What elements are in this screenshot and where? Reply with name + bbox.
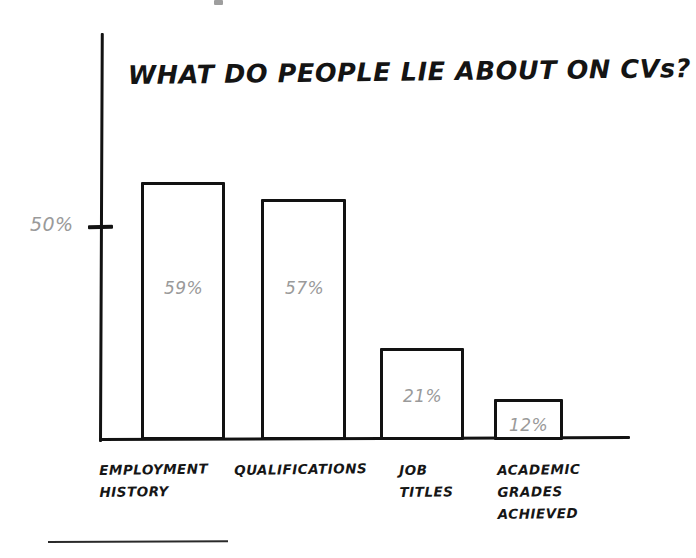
bar-qualifications [261, 199, 346, 440]
scan-artifact-mark [214, 0, 223, 5]
category-label-line: GRADES [497, 483, 562, 500]
category-label-line: HISTORY [99, 483, 168, 500]
chart-canvas: WHAT DO PEOPLE LIE ABOUT ON CVs? 50% 59%… [0, 0, 696, 558]
bar-employment-history [141, 182, 225, 440]
y-axis-tick-50 [88, 225, 113, 229]
footer-rule [48, 540, 228, 543]
bar-value-job-titles: 21% [403, 386, 442, 406]
category-label-line: ACADEMIC [497, 461, 580, 478]
y-axis-line [99, 33, 104, 442]
category-label-job-titles: JOB TITLES [399, 458, 454, 503]
bar-value-academic-grades-achieved: 12% [509, 415, 548, 435]
category-label-line: ACHIEVED [498, 505, 579, 522]
chart-title: WHAT DO PEOPLE LIE ABOUT ON CVs? [128, 53, 680, 90]
category-label-line: EMPLOYMENT [99, 460, 208, 478]
category-label-qualifications: QUALIFICATIONS [234, 457, 367, 481]
category-label-line: TITLES [399, 483, 453, 500]
category-label-line: QUALIFICATIONS [234, 460, 367, 478]
bar-value-qualifications: 57% [285, 278, 324, 298]
category-label-academic-grades-achieved: ACADEMIC GRADES ACHIEVED [497, 458, 581, 525]
y-axis-tick-label-50: 50% [30, 213, 73, 235]
category-label-employment-history: EMPLOYMENT HISTORY [99, 457, 209, 503]
category-label-line: JOB [399, 462, 428, 478]
bar-value-employment-history: 59% [164, 278, 203, 298]
